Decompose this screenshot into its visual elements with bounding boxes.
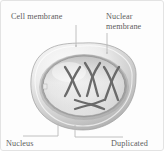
leader-lines [1, 1, 164, 151]
leader-dot-nuclear-membrane [106, 52, 108, 54]
leader-dot-cell-membrane [75, 45, 77, 47]
leader-nucleus [23, 123, 58, 136]
leader-duplicated [75, 125, 123, 137]
cell-diagram-figure: Cell membrane Nuclear membrane Nucleus D… [0, 0, 164, 151]
